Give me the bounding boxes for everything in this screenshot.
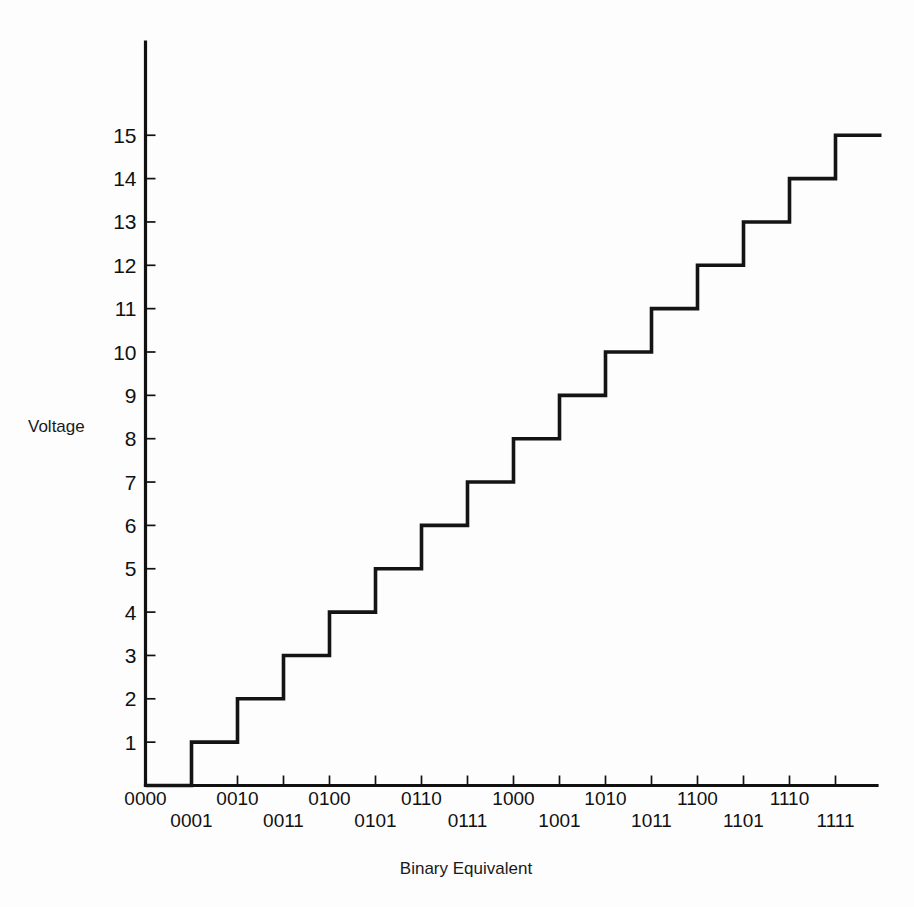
y-axis-tick-label: 7: [125, 471, 137, 494]
x-axis-tick-label: 0110: [401, 788, 442, 809]
x-axis-tick-label: 0100: [308, 788, 350, 809]
y-axis-tick-label: 10: [113, 341, 136, 364]
x-axis-tick-label: 0101: [354, 810, 396, 831]
x-axis-tick-label: 0000: [124, 788, 166, 809]
x-axis-tick-label: 1100: [677, 788, 718, 809]
y-axis-title: Voltage: [28, 417, 85, 436]
y-axis-tick-label: 4: [125, 601, 137, 624]
y-axis-tick-label: 3: [125, 644, 137, 667]
x-axis-title: Binary Equivalent: [400, 859, 533, 878]
y-axis-tick-label: 1: [125, 731, 137, 754]
x-axis-tick-label: 1110: [770, 788, 809, 809]
x-axis-tick-label: 0011: [263, 810, 304, 831]
x-axis-tick-label: 1111: [816, 810, 854, 831]
y-axis-tick-label: 5: [125, 557, 137, 580]
x-axis-tick-label: 1001: [538, 810, 580, 831]
staircase-chart: 123456789101112131415 000000010010001101…: [0, 0, 914, 907]
x-axis-tick-label: 0111: [448, 810, 487, 831]
y-axis-tick-label: 2: [125, 687, 137, 710]
y-axis-tick-label: 8: [125, 427, 137, 450]
x-axis-tick-label: 1011: [631, 810, 672, 831]
x-axis-tick-label: 1000: [492, 788, 534, 809]
x-axis-tick-label: 0010: [216, 788, 258, 809]
y-axis-tick-label: 9: [125, 384, 137, 407]
x-axis-tick-label: 1101: [723, 810, 764, 831]
y-axis-tick-label: 6: [125, 514, 137, 537]
y-axis-tick-label: 13: [113, 210, 136, 233]
y-axis-tick-label: 12: [113, 254, 136, 277]
y-axis-tick-label: 14: [113, 167, 137, 190]
y-axis-tick-label: 11: [115, 297, 137, 320]
y-axis-tick-label: 15: [113, 124, 136, 147]
x-axis-tick-label: 0001: [170, 810, 212, 831]
chart-background: [0, 0, 914, 907]
x-axis-tick-label: 1010: [584, 788, 626, 809]
